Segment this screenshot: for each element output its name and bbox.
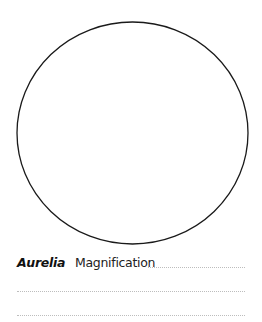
magnification-label: Magnification xyxy=(75,255,155,271)
notes-line-2[interactable] xyxy=(17,315,245,316)
specimen-label-row: Aurelia Magnification xyxy=(17,255,257,271)
magnification-blank-line[interactable] xyxy=(148,267,245,268)
specimen-name: Aurelia xyxy=(17,255,65,271)
notes-line-1[interactable] xyxy=(17,291,245,292)
microscope-field-of-view-circle xyxy=(0,0,262,250)
